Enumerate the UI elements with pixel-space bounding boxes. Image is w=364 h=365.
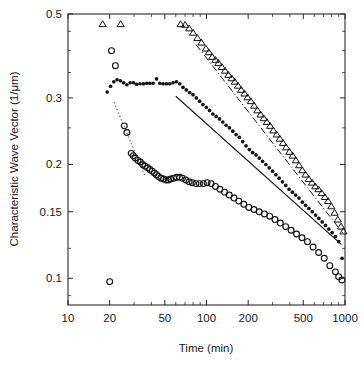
data-point-filled-circle	[334, 235, 338, 239]
data-point-filled-circle	[317, 217, 321, 221]
y-tick-label: 0.5	[46, 8, 62, 20]
data-point-filled-circle	[261, 159, 265, 163]
data-point-filled-circle	[125, 83, 129, 87]
data-point-filled-circle	[105, 90, 109, 94]
x-tick-label: 1000	[332, 312, 358, 324]
data-point-filled-circle	[284, 184, 288, 188]
data-point-filled-circle	[264, 163, 268, 167]
data-point-filled-circle	[184, 88, 188, 92]
data-point-filled-circle	[287, 187, 291, 191]
data-point-filled-circle	[300, 200, 304, 204]
data-point-filled-circle	[314, 213, 318, 217]
data-point-filled-circle	[251, 151, 255, 155]
data-point-filled-circle	[214, 115, 218, 119]
data-point-filled-circle	[145, 81, 149, 85]
data-point-filled-circle	[310, 210, 314, 214]
data-point-filled-circle	[340, 256, 344, 260]
y-tick-label: 0.15	[40, 206, 62, 218]
data-point-filled-circle	[218, 117, 222, 121]
data-point-filled-circle	[307, 207, 311, 211]
data-point-filled-circle	[191, 93, 195, 97]
data-point-filled-circle	[234, 133, 238, 137]
y-tick-label: 0.3	[46, 92, 62, 104]
data-point-filled-circle	[238, 135, 242, 139]
data-point-filled-circle	[128, 81, 132, 85]
data-point-filled-circle	[168, 82, 172, 86]
data-point-filled-circle	[188, 91, 192, 95]
data-point-filled-circle	[115, 78, 119, 82]
y-tick-label: 0.1	[46, 272, 62, 284]
data-point-filled-circle	[181, 85, 185, 89]
data-point-filled-circle	[267, 166, 271, 170]
data-point-filled-circle	[175, 80, 179, 84]
x-tick-label: 100	[197, 312, 216, 324]
x-tick-label: 500	[294, 312, 313, 324]
data-point-filled-circle	[132, 81, 136, 85]
data-point-filled-circle	[294, 193, 298, 197]
y-tick-label: 0.2	[46, 158, 62, 170]
data-point-filled-circle	[231, 129, 235, 133]
data-point-filled-circle	[330, 231, 334, 235]
data-point-filled-circle	[324, 224, 328, 228]
data-point-filled-circle	[122, 81, 126, 85]
y-axis-title: Characteristic Wave Vector (1/μm)	[8, 71, 20, 246]
data-point-filled-circle	[151, 81, 155, 85]
data-point-filled-circle	[194, 96, 198, 100]
data-point-filled-circle	[277, 176, 281, 180]
data-point-filled-circle	[320, 220, 324, 224]
data-point-filled-circle	[228, 126, 232, 130]
data-point-filled-circle	[165, 82, 169, 86]
data-point-filled-circle	[291, 190, 295, 194]
data-point-filled-circle	[155, 77, 159, 81]
data-point-filled-circle	[327, 227, 331, 231]
data-point-filled-circle	[274, 173, 278, 177]
data-point-filled-circle	[247, 148, 251, 152]
data-point-filled-circle	[211, 112, 215, 116]
data-point-filled-circle	[204, 106, 208, 110]
data-point-filled-circle	[148, 81, 152, 85]
data-point-filled-circle	[142, 82, 146, 86]
data-point-filled-circle	[198, 99, 202, 103]
data-point-filled-circle	[112, 80, 116, 84]
data-point-filled-circle	[138, 82, 142, 86]
x-tick-label: 50	[158, 312, 171, 324]
data-point-filled-circle	[244, 144, 248, 148]
chart-figure: 10205010020050010000.10.150.20.30.5 Time…	[0, 0, 364, 365]
data-point-filled-circle	[281, 180, 285, 184]
x-tick-label: 20	[103, 312, 116, 324]
data-point-filled-circle	[241, 140, 245, 144]
x-axis-title: Time (min)	[179, 342, 234, 354]
data-point-filled-circle	[119, 79, 123, 83]
data-point-filled-circle	[135, 82, 139, 86]
x-tick-label: 10	[62, 312, 75, 324]
scatter-plot-svg: 10205010020050010000.10.150.20.30.5 Time…	[0, 0, 364, 365]
data-point-filled-circle	[224, 123, 228, 127]
data-point-filled-circle	[201, 103, 205, 107]
data-point-filled-circle	[161, 82, 165, 86]
figure-background	[0, 0, 364, 365]
data-point-filled-circle	[257, 156, 261, 160]
data-point-filled-circle	[271, 169, 275, 173]
data-point-filled-circle	[297, 196, 301, 200]
data-point-filled-circle	[254, 153, 258, 157]
data-point-filled-circle	[109, 84, 113, 88]
data-point-filled-circle	[221, 120, 225, 124]
data-point-filled-circle	[208, 109, 212, 113]
data-point-filled-circle	[304, 203, 308, 207]
data-point-filled-circle	[337, 240, 341, 244]
x-tick-label: 200	[239, 312, 258, 324]
data-point-filled-circle	[158, 81, 162, 85]
data-point-filled-circle	[178, 82, 182, 86]
data-point-filled-circle	[171, 81, 175, 85]
